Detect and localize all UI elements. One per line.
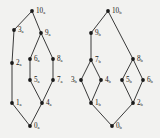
node-8b: 8b	[131, 55, 143, 63]
node-sub-2b: b	[141, 102, 144, 107]
node-label-2a: 2a	[16, 59, 22, 67]
node-6b: 6b	[141, 76, 153, 84]
node-label-5a: 5a	[34, 76, 40, 84]
node-label-10b: 10b	[112, 7, 122, 15]
node-label-10a: 10a	[36, 7, 45, 15]
node-sub-5b: b	[130, 79, 133, 84]
node-sub-7a: a	[61, 79, 63, 84]
node-sub-6b: b	[151, 79, 154, 84]
node-label-9a: 9a	[45, 29, 51, 37]
node-dot-10a	[30, 9, 34, 13]
node-sub-4b: b	[109, 79, 112, 84]
edge-group-b	[81, 11, 143, 126]
node-label-6b: 6b	[147, 76, 154, 84]
node-4b: 4b	[99, 76, 111, 84]
edge-3b-7b	[81, 60, 91, 80]
node-10b: 10b	[106, 7, 122, 15]
node-label-5b: 5b	[126, 76, 133, 84]
node-dot-5b	[120, 78, 124, 82]
node-dot-6b	[141, 78, 145, 82]
node-2b: 2b	[131, 99, 143, 107]
node-sub-10a: a	[43, 10, 45, 15]
node-sub-1b: b	[99, 102, 102, 107]
node-sub-3b: b	[75, 79, 78, 84]
node-label-7a: 7a	[57, 76, 63, 84]
node-label-3b: 3b	[71, 76, 78, 84]
node-dot-9b	[89, 31, 93, 35]
node-1b: 1b	[89, 99, 101, 107]
node-9a: 9a	[39, 29, 51, 37]
node-label-4b: 4b	[105, 76, 112, 84]
node-sub-9a: a	[49, 32, 51, 37]
node-4a: 4a	[40, 99, 52, 107]
node-sub-8a: a	[61, 58, 63, 63]
node-dot-4a	[40, 101, 44, 105]
node-sub-0b: b	[120, 125, 123, 130]
node-label-9b: 9b	[95, 29, 102, 37]
node-dot-4b	[99, 78, 103, 82]
node-sub-9b: b	[99, 32, 102, 37]
node-dot-7b	[89, 58, 93, 62]
node-dot-1a	[10, 101, 14, 105]
node-sub-0a: a	[38, 125, 40, 130]
node-label-2b: 2b	[137, 99, 144, 107]
node-dot-0b	[110, 124, 114, 128]
node-dot-2b	[131, 101, 135, 105]
node-dot-6a	[28, 57, 32, 61]
node-sub-1a: a	[20, 102, 22, 107]
node-label-1a: 1a	[16, 99, 22, 107]
poset-b: 0b1b2b3b4b5b6b7b8b9b10b	[71, 7, 154, 130]
node-dot-3b	[79, 78, 83, 82]
node-dot-8a	[51, 57, 55, 61]
node-label-1b: 1b	[95, 99, 102, 107]
edge-9b-10b	[91, 11, 108, 33]
node-sub-2a: a	[20, 62, 22, 67]
node-sub-4a: a	[50, 102, 52, 107]
node-dot-1b	[89, 101, 93, 105]
edge-1b-3b	[81, 80, 91, 103]
node-3b: 3b	[71, 76, 83, 84]
node-label-8a: 8a	[57, 55, 63, 63]
node-dot-8b	[131, 57, 135, 61]
node-dot-5a	[28, 78, 32, 82]
node-dot-3a	[12, 28, 16, 32]
node-sub-8b: b	[141, 58, 144, 63]
node-label-7b: 7b	[95, 56, 102, 64]
edge-8b-10b	[108, 11, 133, 59]
hasse-diagram-figure: 0a1a2a3a4a5a6a7a8a9a10a0b1b2b3b4b5b6b7b8…	[0, 0, 160, 138]
node-label-0b: 0b	[116, 122, 123, 130]
node-0a: 0a	[28, 122, 40, 130]
node-label-0a: 0a	[34, 122, 40, 130]
node-dot-2a	[10, 61, 14, 65]
node-5b: 5b	[120, 76, 132, 84]
node-label-8b: 8b	[137, 55, 144, 63]
node-dot-9a	[39, 31, 43, 35]
node-dot-10b	[106, 9, 110, 13]
node-sub-6a: a	[38, 58, 40, 63]
node-sub-5a: a	[38, 79, 40, 84]
node-label-3a: 3a	[18, 26, 24, 34]
node-dot-7a	[51, 78, 55, 82]
node-sub-10b: b	[119, 10, 122, 15]
poset-diagrams-canvas: 0a1a2a3a4a5a6a7a8a9a10a0b1b2b3b4b5b6b7b8…	[0, 0, 160, 138]
node-0b: 0b	[110, 122, 122, 130]
node-dot-0a	[28, 124, 32, 128]
node-sub-7b: b	[99, 59, 102, 64]
node-10a: 10a	[30, 7, 45, 15]
poset-a: 0a1a2a3a4a5a6a7a8a9a10a	[10, 7, 63, 130]
edge-8a-9a	[41, 33, 53, 59]
node-label-4a: 4a	[46, 99, 52, 107]
edge-3a-10a	[14, 11, 32, 30]
node-sub-3a: a	[22, 29, 24, 34]
edge-2a-3a	[12, 30, 14, 63]
node-label-6a: 6a	[34, 55, 40, 63]
